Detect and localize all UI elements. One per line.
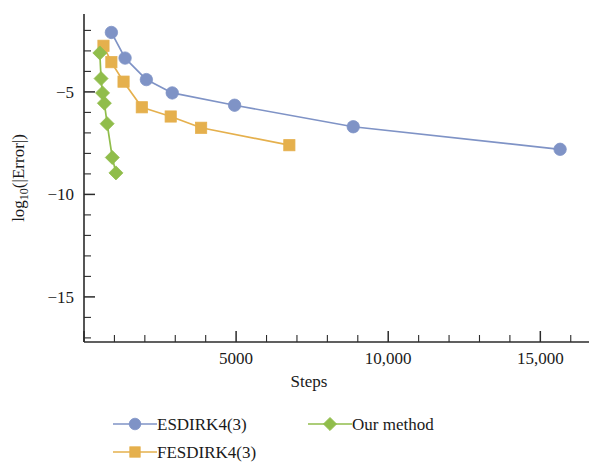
chart-series-layer — [93, 26, 566, 180]
series-line — [111, 32, 560, 149]
chart-legend: ESDIRK4(3)FESDIRK4(3)Our method — [113, 415, 434, 462]
y-tick-label: −15 — [47, 288, 74, 307]
y-axis-tick-labels: −5−10−15 — [47, 83, 74, 307]
x-axis-major-ticks — [84, 331, 540, 342]
data-point-square — [284, 140, 295, 151]
data-point-square — [106, 57, 117, 68]
data-point-circle — [140, 73, 152, 85]
data-point-diamond — [323, 417, 336, 430]
data-point-diamond — [105, 151, 119, 165]
y-axis-minor-ticks — [84, 30, 91, 338]
y-axis-major-ticks — [84, 92, 95, 297]
data-point-square — [130, 447, 140, 457]
x-tick-label: 15,000 — [517, 349, 564, 368]
data-point-diamond — [109, 166, 123, 180]
data-point-square — [118, 76, 129, 87]
legend-label: ESDIRK4(3) — [157, 415, 247, 434]
legend-item-fesdirk4-3[interactable]: FESDIRK4(3) — [113, 443, 256, 462]
x-tick-label: 5000 — [219, 349, 253, 368]
data-point-circle — [347, 121, 359, 133]
data-point-square — [165, 111, 176, 122]
data-point-circle — [228, 99, 240, 111]
y-tick-label: −10 — [47, 185, 74, 204]
data-point-square — [136, 102, 147, 113]
y-axis-title: log10(|Error|) — [9, 134, 31, 222]
data-point-diamond — [94, 72, 108, 86]
legend-label: FESDIRK4(3) — [157, 443, 256, 462]
data-point-diamond — [100, 117, 114, 131]
data-point-circle — [105, 26, 117, 38]
data-point-square — [196, 122, 207, 133]
x-axis: 500010,00015,000 — [84, 331, 589, 368]
x-axis-title: Steps — [291, 372, 328, 391]
legend-label: Our method — [352, 415, 434, 434]
data-point-circle — [129, 418, 141, 430]
x-tick-label: 10,000 — [365, 349, 412, 368]
y-tick-label: −5 — [56, 83, 74, 102]
x-axis-tick-labels: 500010,00015,000 — [219, 349, 564, 368]
legend-item-esdirk4-3[interactable]: ESDIRK4(3) — [113, 415, 247, 434]
data-point-circle — [554, 143, 566, 155]
y-axis-title-group: log10(|Error|) — [9, 134, 31, 222]
chart-figure: −5−10−15 500010,00015,000 Steps log10(|E… — [0, 0, 589, 464]
y-axis: −5−10−15 — [47, 14, 95, 342]
data-point-circle — [119, 52, 131, 64]
x-axis-minor-ticks — [114, 335, 570, 342]
error-vs-steps-chart: −5−10−15 500010,00015,000 Steps log10(|E… — [0, 0, 589, 464]
data-point-diamond — [97, 96, 111, 110]
data-point-circle — [166, 87, 178, 99]
series-esdirk4-3 — [105, 26, 566, 155]
legend-item-our-method[interactable]: Our method — [308, 415, 434, 434]
